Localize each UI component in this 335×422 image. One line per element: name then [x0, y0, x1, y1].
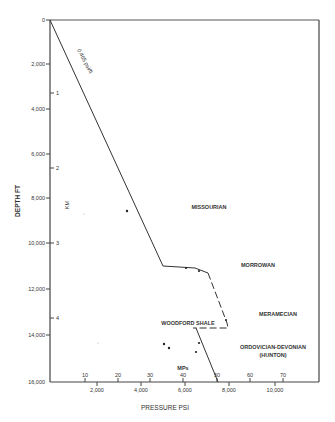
psi-tick-label: 10,000: [267, 387, 284, 393]
depth-tick-label: 14,000: [28, 332, 45, 338]
zone-label-hunton: (HUNTON): [259, 352, 286, 358]
pressure-profile-lower: [196, 328, 218, 382]
data-points: [83, 210, 227, 353]
depth-tick-label: 10,000: [28, 240, 45, 246]
depth-tick-label: 16,000: [28, 379, 45, 385]
psi-tick-label: 2,000: [90, 387, 104, 393]
depth-tick-label: 6,000: [31, 151, 45, 157]
psi-tick-label: 6,000: [178, 387, 192, 393]
x-axis-title: PRESSURE PSI: [141, 404, 189, 411]
zone-label-woodford-shale: WOODFORD SHALE: [161, 320, 215, 326]
mpa-tick-label: 20: [115, 372, 121, 378]
mpa-tick-label: 10: [82, 372, 88, 378]
mpa-tick-label: 30: [147, 372, 153, 378]
gradient-label: 0.465 psi/ft: [76, 48, 94, 75]
mpa-tick-label: 70: [280, 372, 286, 378]
depth-tick-label: 12,000: [28, 286, 45, 292]
depth-tick-label: 2,000: [31, 61, 45, 67]
km-tick-label: 1: [56, 90, 59, 96]
x-secondary-title: MPs: [177, 365, 188, 371]
km-tick-label: 2: [56, 165, 59, 171]
psi-tick-label: 8,000: [222, 387, 236, 393]
km-tick-label: 3: [56, 240, 59, 246]
zone-label-morrowan: MORROWAN: [241, 262, 275, 268]
depth-tick-label: 8,000: [31, 195, 45, 201]
zone-label-missourian: MISSOURIAN: [191, 204, 226, 210]
zone-label-meramecian: MERAMECIAN: [259, 311, 297, 317]
y-axis-title: DEPTH FT: [14, 185, 21, 217]
pressure-profile-line: [50, 20, 208, 273]
y-secondary-title: KM: [64, 200, 70, 209]
psi-tick-label: 4,000: [134, 387, 148, 393]
km-tick-label: 4: [56, 315, 59, 321]
depth-tick-label: 0: [42, 17, 45, 23]
mpa-tick-label: 40: [180, 372, 186, 378]
zone-label-ordovician-devonian: ORDOVICIAN-DEVONIAN: [240, 344, 306, 350]
depth-tick-label: 4,000: [31, 106, 45, 112]
mpa-tick-label: 60: [247, 372, 253, 378]
pressure-depth-chart: 0 2,000 4,000 6,000 8,000 10,000 12,000 …: [0, 0, 335, 422]
